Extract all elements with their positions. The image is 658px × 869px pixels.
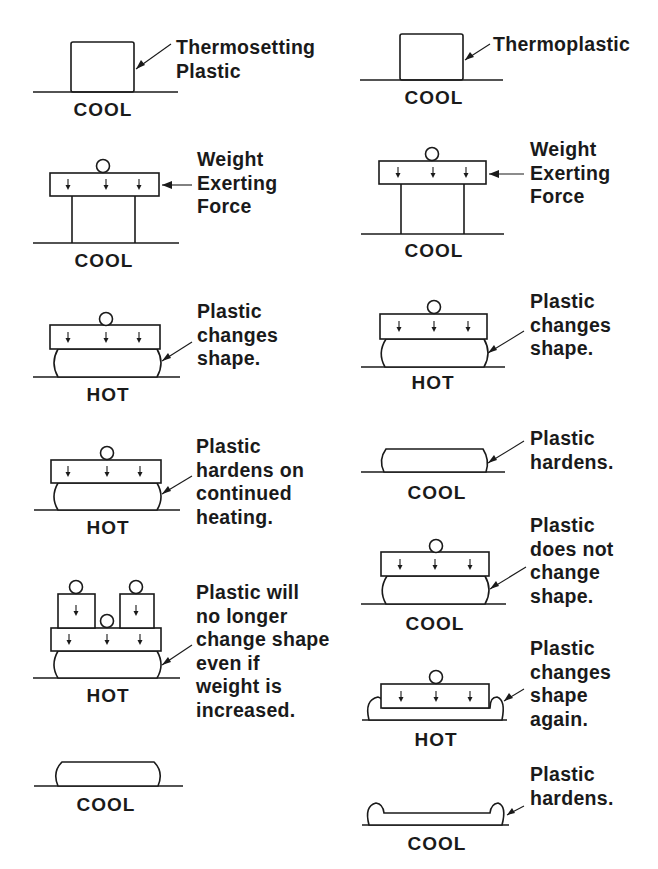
right-step5-cool-weight <box>361 540 526 605</box>
left-step6-state: COOL <box>56 795 156 815</box>
left-step4-state: HOT <box>58 518 158 538</box>
left-step1-state: COOL <box>53 100 153 120</box>
right-step1-state: COOL <box>384 88 484 108</box>
left-step6-cool <box>34 762 183 786</box>
right-step3-state: HOT <box>383 373 483 393</box>
right-step1-block <box>360 34 503 80</box>
right-step7-state: COOL <box>387 834 487 854</box>
right-step2-note: Weight Exerting Force <box>530 138 610 209</box>
right-step6-note: Plastic changes shape again. <box>530 637 611 731</box>
right-step7-note: Plastic hardens. <box>530 763 614 810</box>
right-step3-hot <box>361 301 524 368</box>
left-step3-note: Plastic changes shape. <box>197 300 278 371</box>
right-step3-note: Plastic changes shape. <box>530 290 611 361</box>
left-step2-note: Weight Exerting Force <box>197 148 277 219</box>
left-step2-weight <box>33 160 192 244</box>
left-step4-hot <box>34 447 192 511</box>
left-step2-state: COOL <box>54 251 154 271</box>
right-step2-state: COOL <box>384 241 484 261</box>
left-step5-hot-more-weight <box>33 581 192 679</box>
right-step5-state: COOL <box>385 614 485 634</box>
left-step1-note: Thermosetting Plastic <box>176 36 315 83</box>
right-step2-weight <box>361 148 524 235</box>
right-step4-cool <box>361 441 524 472</box>
left-step3-hot <box>33 313 192 378</box>
right-step1-note: Thermoplastic <box>493 33 630 57</box>
right-step6-state: HOT <box>386 730 486 750</box>
right-step4-state: COOL <box>387 483 487 503</box>
left-step4-note: Plastic hardens on continued heating. <box>196 435 304 529</box>
left-step5-state: HOT <box>58 686 158 706</box>
left-step1-block <box>33 42 178 92</box>
plastics-heat-diagram: COOL Thermosetting Plastic COOL Weight E… <box>0 0 658 869</box>
right-step6-hot-again <box>362 671 524 721</box>
right-step5-note: Plastic does not change shape. <box>530 514 614 608</box>
right-step7-cool <box>362 803 524 825</box>
left-step5-note: Plastic will no longer change shape even… <box>196 581 330 722</box>
left-step3-state: HOT <box>58 385 158 405</box>
right-step4-note: Plastic hardens. <box>530 427 614 474</box>
